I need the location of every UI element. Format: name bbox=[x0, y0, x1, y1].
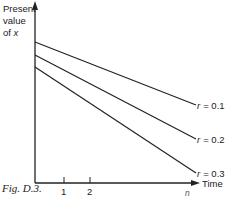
x-tick-label-1: 1 bbox=[61, 186, 66, 197]
series-label-r-0.2: r= 0.2 bbox=[197, 134, 225, 145]
y-label-line-3: of x bbox=[3, 27, 20, 38]
present-value-chart: 1 2 Present value of x r= 0.1 r= 0.2 r= … bbox=[0, 0, 230, 198]
y-label-line-2: value bbox=[3, 15, 26, 26]
series-line-r-0.1 bbox=[35, 42, 196, 105]
series-label-r-0.1: r= 0.1 bbox=[197, 100, 225, 111]
series-line-r-0.3 bbox=[35, 67, 196, 173]
x-axis-label: Time bbox=[202, 178, 223, 189]
x-axis-variable: n bbox=[185, 188, 190, 198]
figure-caption: Fig. D.3. bbox=[1, 182, 42, 194]
y-label-line-1: Present bbox=[3, 3, 36, 14]
x-axis-arrow-icon bbox=[191, 180, 200, 186]
x-tick-label-2: 2 bbox=[87, 186, 92, 197]
series-line-r-0.2 bbox=[35, 55, 196, 139]
